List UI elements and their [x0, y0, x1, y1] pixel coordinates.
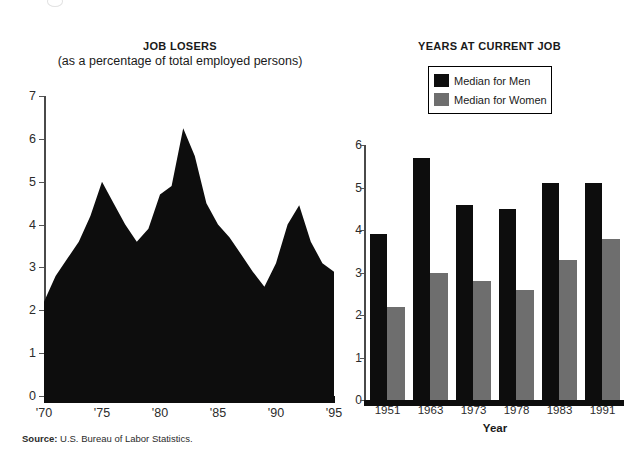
bar-men — [456, 205, 473, 401]
right-x-tick-label: 1991 — [580, 405, 626, 417]
right-y-tick-mark — [360, 358, 364, 359]
bar-women — [516, 290, 533, 401]
left-y-tick-label: 3 — [10, 261, 36, 274]
right-y-tick-label: 1 — [340, 352, 362, 364]
right-y-tick-mark — [360, 230, 364, 231]
bar-men — [413, 158, 430, 400]
right-x-axis-label: Year — [366, 422, 624, 434]
left-y-tick-label: 0 — [10, 390, 36, 403]
bar-men — [585, 183, 602, 400]
right-y-tick-label: 4 — [340, 224, 362, 236]
job-losers-area-chart: JOB LOSERS (as a percentage of total emp… — [0, 0, 360, 430]
bar-women — [602, 239, 619, 401]
legend-item-women: Median for Women — [434, 90, 546, 109]
right-y-tick-label: 3 — [340, 267, 362, 279]
right-y-tick-label: 2 — [340, 309, 362, 321]
bar-men — [542, 183, 559, 400]
legend-label-women: Median for Women — [454, 94, 547, 106]
left-chart-title: JOB LOSERS — [20, 40, 340, 52]
left-y-tick-label: 1 — [10, 347, 36, 360]
left-y-tick-label: 2 — [10, 304, 36, 317]
right-y-tick-mark — [360, 188, 364, 189]
bar-men — [499, 209, 516, 400]
left-x-tick-label: '80 — [140, 407, 180, 420]
source-note: Source: U.S. Bureau of Labor Statistics. — [22, 433, 193, 444]
left-y-tick-label: 4 — [10, 219, 36, 232]
left-chart-subtitle: (as a percentage of total employed perso… — [10, 54, 350, 68]
legend: Median for Men Median for Women — [428, 66, 552, 114]
left-x-tick-label: '95 — [314, 407, 354, 420]
bar-women — [430, 273, 447, 401]
right-x-tick-label: 1963 — [408, 405, 454, 417]
right-chart-title: YEARS AT CURRENT JOB — [418, 40, 628, 52]
left-x-tick-label: '85 — [198, 407, 238, 420]
legend-swatch-women-icon — [434, 93, 449, 106]
legend-label-men: Median for Men — [454, 75, 530, 87]
bar-group — [456, 145, 490, 400]
right-y-tick-mark — [360, 315, 364, 316]
legend-item-men: Median for Men — [434, 71, 546, 90]
right-y-tick-label: 5 — [340, 182, 362, 194]
left-y-tick-label: 7 — [10, 90, 36, 103]
left-x-tick-label: '90 — [256, 407, 296, 420]
bar-men — [370, 234, 387, 400]
legend-swatch-men-icon — [434, 74, 449, 87]
bar-women — [559, 260, 576, 400]
left-y-tick-label: 5 — [10, 176, 36, 189]
area-series-job-losers — [44, 96, 334, 396]
left-x-axis-line — [44, 396, 335, 403]
bar-group — [370, 145, 404, 400]
right-x-tick-label: 1951 — [365, 405, 411, 417]
right-y-tick-mark — [360, 273, 364, 274]
source-text: U.S. Bureau of Labor Statistics. — [57, 433, 192, 444]
right-x-tick-label: 1973 — [451, 405, 497, 417]
bar-women — [387, 307, 404, 401]
bar-series-area — [366, 145, 624, 400]
bar-group — [413, 145, 447, 400]
bar-group — [499, 145, 533, 400]
bar-group — [542, 145, 576, 400]
left-y-tick-mark — [39, 396, 44, 397]
source-prefix: Source: — [22, 433, 57, 444]
left-y-tick-label: 6 — [10, 133, 36, 146]
bar-group — [585, 145, 619, 400]
bar-women — [473, 281, 490, 400]
figure-canvas: JOB LOSERS (as a percentage of total emp… — [0, 0, 632, 467]
left-x-tick-label: '70 — [24, 407, 64, 420]
right-y-tick-label: 0 — [340, 394, 362, 406]
right-x-tick-label: 1983 — [537, 405, 583, 417]
left-x-tick-label: '75 — [82, 407, 122, 420]
right-y-tick-label: 6 — [340, 139, 362, 151]
right-y-tick-mark — [360, 145, 364, 146]
right-y-tick-mark — [360, 400, 364, 401]
right-x-tick-label: 1978 — [494, 405, 540, 417]
